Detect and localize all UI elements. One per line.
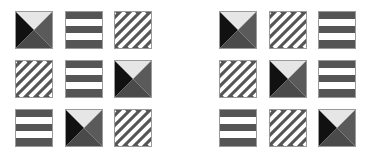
right-tile-1-3-horizontal-stripes-icon	[318, 11, 356, 49]
right-tile-3-1-horizontal-stripes-icon	[219, 109, 257, 147]
left-tile-1-3-diagonal-stripes-icon	[114, 11, 152, 49]
right-tile-2-3-horizontal-stripes-icon	[318, 60, 356, 98]
right-tile-3-2-diagonal-stripes-icon	[269, 109, 307, 147]
left-tile-3-1-horizontal-stripes-icon	[15, 109, 53, 147]
right-tile-2-1-diagonal-stripes-icon	[219, 60, 257, 98]
left-tile-2-1-diagonal-stripes-icon	[15, 60, 53, 98]
left-tile-1-2-horizontal-stripes-icon	[65, 11, 103, 49]
left-pattern-grid	[15, 11, 153, 149]
right-pattern-grid	[219, 11, 357, 149]
left-tile-2-3-pyramid-icon	[114, 60, 152, 98]
right-tile-1-1-pyramid-icon	[219, 11, 257, 49]
left-tile-3-3-diagonal-stripes-icon	[114, 109, 152, 147]
left-tile-2-2-horizontal-stripes-icon	[65, 60, 103, 98]
left-tile-3-2-pyramid-icon	[65, 109, 103, 147]
left-tile-1-1-pyramid-icon	[15, 11, 53, 49]
right-tile-1-2-diagonal-stripes-icon	[269, 11, 307, 49]
right-tile-2-2-pyramid-icon	[269, 60, 307, 98]
right-tile-3-3-pyramid-icon	[318, 109, 356, 147]
